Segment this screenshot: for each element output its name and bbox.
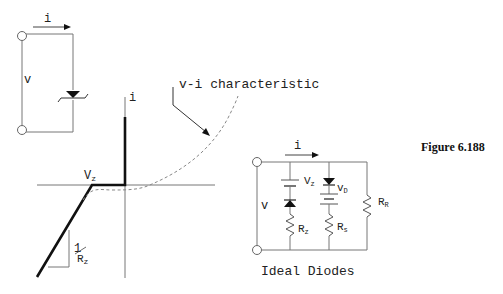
y-axis-label: i: [129, 91, 136, 105]
zener-diode-icon: [66, 91, 80, 98]
resistor-icon: [286, 214, 294, 236]
equivalent-circuit: i v Vz Rz vD: [253, 139, 390, 279]
diode-icon: [284, 200, 296, 207]
knee-label: Vz: [84, 169, 96, 183]
terminal-bottom: [253, 246, 262, 255]
diode-voltage-label: vD: [337, 182, 348, 195]
zener-resistor-label: Rz: [298, 223, 309, 236]
slope-triangle: [48, 230, 69, 267]
circuit-caption: Ideal Diodes: [261, 264, 355, 279]
zener-branch: Vz Rz: [281, 162, 315, 250]
annotation-leader: [173, 87, 206, 132]
terminal-top: [18, 32, 27, 41]
terminal-bottom: [18, 126, 27, 135]
reverse-resistor-branch: RR: [363, 162, 390, 250]
terminal-top: [253, 158, 262, 167]
curve-annotation: v-i characteristic: [179, 77, 319, 92]
voltage-label: v: [24, 73, 31, 87]
resistor-icon: [325, 214, 333, 236]
current-label: i: [44, 12, 51, 26]
voltage-label: v: [261, 199, 268, 213]
current-arrow-icon: [312, 152, 319, 158]
figure-canvas: i v i Vz 1 Rz v-i characteristic: [0, 0, 503, 294]
resistor-icon: [363, 195, 371, 217]
figure-caption: Figure 6.188: [421, 140, 485, 154]
zener-source-label: Vz: [304, 175, 315, 188]
forward-branch: vD Rs: [320, 162, 348, 250]
slope-denominator: Rz: [77, 253, 89, 266]
series-resistor-label: Rs: [337, 221, 348, 234]
current-arrow-icon: [64, 24, 71, 30]
zener-symbol-circuit: i v: [18, 12, 89, 135]
diode-icon: [323, 178, 335, 185]
reverse-resistor-label: RR: [378, 196, 390, 209]
vi-plot: i Vz 1 Rz v-i characteristic: [37, 77, 319, 278]
current-label: i: [294, 139, 301, 153]
